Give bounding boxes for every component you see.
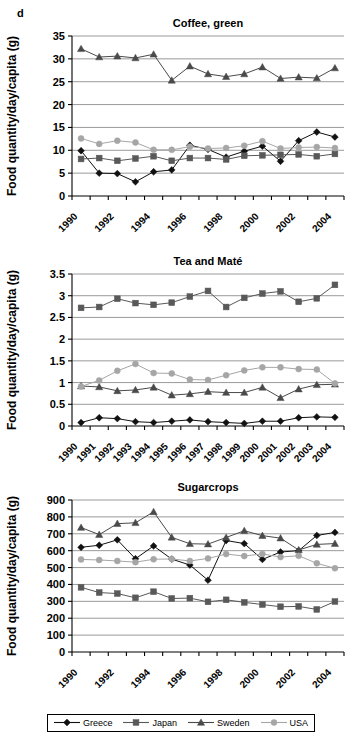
y-tick-label: 35 — [53, 30, 65, 42]
series-sweden — [77, 45, 338, 83]
x-tick-label: 2004 — [310, 666, 334, 690]
data-point — [187, 144, 193, 150]
data-point — [331, 540, 338, 546]
x-tick-label: 2004 — [310, 440, 334, 464]
data-point — [332, 414, 339, 421]
data-point — [223, 304, 229, 310]
x-tick-label: 1994 — [129, 666, 153, 690]
chart-tea-and-mate: Tea and MatéFood quantity/day/capita (g)… — [0, 252, 362, 484]
y-tick-label: 3.5 — [50, 268, 65, 280]
x-tick-label: 1991 — [74, 440, 98, 464]
data-point — [169, 556, 175, 562]
legend-item-greece: Greece — [54, 717, 113, 728]
data-point — [241, 553, 247, 559]
data-point — [241, 367, 247, 373]
x-tick-label: 1992 — [92, 440, 116, 464]
data-point — [150, 51, 157, 57]
y-tick-label: 400 — [47, 578, 65, 590]
y-axis-title: Food quantity/day/capita (g) — [5, 270, 19, 430]
chart-title: Sugarcrops — [177, 481, 238, 493]
x-tick-label: 2003 — [292, 440, 316, 464]
data-point — [169, 147, 175, 153]
data-point — [260, 291, 266, 297]
y-tick-label: 20 — [53, 99, 65, 111]
data-point — [169, 300, 175, 306]
legend-marker-square-icon — [123, 717, 149, 728]
data-point — [96, 542, 103, 549]
data-point — [205, 418, 212, 425]
data-point — [186, 417, 193, 424]
data-point — [332, 380, 338, 386]
data-point — [78, 156, 84, 162]
data-point — [132, 361, 138, 367]
data-point — [241, 153, 247, 159]
data-point — [187, 595, 193, 601]
data-point — [296, 553, 302, 559]
data-point — [150, 419, 157, 426]
y-tick-label: 800 — [47, 511, 65, 523]
data-point — [278, 152, 284, 158]
data-point — [96, 377, 102, 383]
data-point — [314, 607, 320, 613]
data-point — [78, 305, 84, 311]
data-point — [77, 524, 84, 530]
data-point — [278, 145, 284, 151]
data-point — [114, 53, 121, 59]
data-point — [204, 70, 211, 76]
data-point — [187, 558, 193, 564]
data-point — [332, 134, 339, 141]
x-tick-label: 2000 — [237, 666, 261, 690]
chart-title: Coffee, green — [173, 17, 244, 29]
x-tick-label: 1998 — [201, 210, 225, 234]
data-point — [186, 63, 193, 69]
data-point — [278, 288, 284, 294]
data-point — [314, 367, 320, 373]
data-point — [205, 599, 211, 605]
data-point — [133, 595, 139, 601]
x-tick-label: 2002 — [274, 210, 298, 234]
data-point — [96, 590, 102, 596]
data-point — [259, 551, 265, 557]
data-point — [331, 64, 338, 70]
y-tick-label: 900 — [47, 494, 65, 506]
y-tick-label: 2 — [59, 333, 65, 345]
legend: GreeceJapanSwedenUSA — [0, 714, 362, 732]
series-sweden — [77, 381, 338, 401]
data-point — [259, 418, 266, 425]
data-point — [77, 45, 84, 51]
data-point — [204, 388, 211, 394]
legend-item-sweden: Sweden — [188, 717, 250, 728]
legend-marker-triangle-icon — [188, 717, 214, 728]
y-tick-label: 25 — [53, 76, 65, 88]
data-point — [151, 147, 157, 153]
data-point — [187, 155, 193, 161]
data-point — [332, 151, 338, 157]
data-point — [132, 519, 139, 525]
data-point — [259, 384, 266, 390]
data-point — [169, 158, 175, 164]
x-tick-label: 1994 — [129, 210, 153, 234]
data-point — [205, 155, 211, 161]
y-tick-label: 15 — [53, 121, 65, 133]
data-point — [78, 135, 84, 141]
y-tick-label: 0 — [59, 190, 65, 202]
x-tick-label: 1996 — [165, 666, 189, 690]
chart-svg: Tea and MatéFood quantity/day/capita (g)… — [0, 252, 362, 484]
data-point — [168, 167, 175, 174]
x-tick-label: 1999 — [219, 440, 243, 464]
data-point — [151, 153, 157, 159]
data-point — [314, 144, 320, 150]
data-point — [133, 156, 139, 162]
data-point — [150, 384, 157, 390]
data-point — [295, 414, 302, 421]
y-axis-title: Food quantity/day/capita (g) — [5, 496, 19, 656]
data-point — [150, 508, 157, 514]
x-tick-label: 1996 — [165, 210, 189, 234]
y-tick-label: 0.5 — [50, 398, 65, 410]
x-tick-label: 1990 — [56, 440, 80, 464]
data-point — [260, 602, 266, 608]
data-point — [151, 302, 157, 308]
x-tick-label: 2000 — [237, 210, 261, 234]
data-point — [278, 554, 284, 560]
data-point — [187, 294, 193, 300]
